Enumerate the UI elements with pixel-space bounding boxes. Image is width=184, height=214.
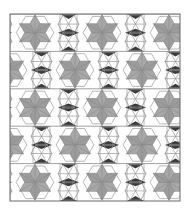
dark-triangle — [0, 164, 10, 169]
six-point-star — [0, 127, 27, 163]
dark-triangle — [0, 14, 10, 19]
dark-triangle — [0, 196, 10, 201]
six-point-star — [150, 15, 184, 51]
star-diamond — [0, 61, 8, 70]
dark-triangle — [0, 121, 10, 126]
six-point-star — [16, 15, 54, 51]
star-diamond — [0, 145, 8, 154]
six-point-star — [150, 164, 184, 200]
six-point-star — [56, 127, 94, 163]
six-point-star — [123, 52, 161, 88]
dark-triangle — [0, 46, 10, 51]
pattern-row — [0, 126, 184, 163]
pattern-row — [0, 89, 184, 126]
six-point-star — [16, 90, 54, 126]
dark-triangle — [165, 66, 184, 74]
pattern-row — [0, 164, 184, 201]
six-point-star — [83, 164, 121, 200]
six-point-star — [0, 52, 27, 88]
six-point-star — [150, 90, 184, 126]
star-diamond — [0, 70, 8, 79]
six-point-star — [83, 15, 121, 51]
pattern-row — [0, 51, 184, 88]
six-point-star — [123, 127, 161, 163]
six-point-star — [16, 164, 54, 200]
six-point-star — [83, 90, 121, 126]
dark-triangle — [165, 141, 184, 149]
dark-triangle — [0, 89, 10, 94]
six-point-star — [56, 52, 94, 88]
pattern-body — [0, 14, 184, 201]
pattern-row — [0, 14, 184, 51]
star-diamond — [0, 136, 8, 145]
star-hexagon-pattern — [0, 0, 184, 214]
